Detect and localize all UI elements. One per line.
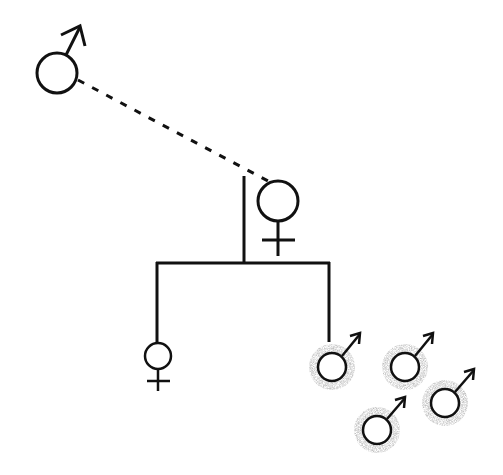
mother-female-symbol — [258, 181, 298, 256]
son-shaded-male-symbol — [309, 333, 360, 390]
male-circle — [391, 353, 419, 381]
female-circle — [145, 343, 171, 369]
dashed-union-line — [78, 80, 268, 181]
male-circle — [363, 416, 391, 444]
male-circle — [431, 389, 459, 417]
shaded-male-symbol-2 — [382, 333, 433, 390]
pedigree-diagram — [0, 0, 503, 475]
male-arrow-shaft — [387, 398, 405, 419]
father-male-symbol — [37, 26, 85, 93]
male-arrow-shaft — [342, 334, 360, 356]
male-arrow-shaft — [415, 334, 433, 356]
male-arrow-shaft — [455, 370, 474, 392]
shaded-male-symbol-3 — [354, 397, 405, 453]
pedigree-svg — [0, 0, 503, 475]
daughter-female-symbol — [145, 343, 171, 391]
male-circle — [318, 353, 346, 381]
shaded-male-symbol-4 — [422, 369, 474, 426]
male-circle — [37, 53, 77, 93]
female-circle — [258, 181, 298, 221]
